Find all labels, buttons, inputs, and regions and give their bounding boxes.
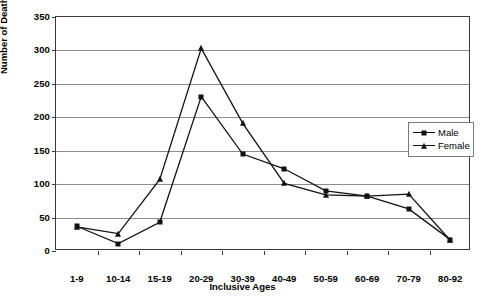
legend-key-triangle-icon: [413, 140, 435, 151]
legend-key-square-icon: [413, 127, 435, 138]
legend-label-male: Male: [438, 127, 459, 138]
data-point-female-50-59: [323, 192, 329, 198]
legend-item-male[interactable]: Male: [413, 126, 469, 139]
y-tick: [52, 251, 56, 252]
y-tick-label: 150: [10, 145, 50, 156]
data-point-female-30-39: [240, 120, 246, 126]
chart-legend[interactable]: Male Female: [408, 122, 474, 157]
data-point-female-10-14: [115, 230, 121, 236]
series-line-male: [77, 97, 451, 244]
x-tick: [264, 251, 265, 255]
data-point-male-30-39: [240, 152, 245, 157]
x-tick: [305, 251, 306, 255]
data-point-female-40-49: [281, 180, 287, 186]
y-tick-label: 350: [10, 11, 50, 22]
y-tick-label: 250: [10, 78, 50, 89]
x-tick: [347, 251, 348, 255]
data-point-female-60-69: [364, 193, 370, 199]
data-point-female-70-79: [406, 191, 412, 197]
data-point-female-15-19: [157, 176, 163, 182]
x-tick: [388, 251, 389, 255]
data-point-female-20-29: [198, 45, 204, 51]
data-point-male-70-79: [406, 206, 411, 211]
data-point-male-40-49: [282, 166, 287, 171]
data-point-female-1-9: [74, 224, 80, 230]
data-point-male-10-14: [116, 241, 121, 246]
x-tick: [430, 251, 431, 255]
y-tick-label: 200: [10, 111, 50, 122]
legend-item-female[interactable]: Female: [413, 139, 469, 152]
y-tick-label: 50: [10, 212, 50, 223]
series-line-female: [77, 48, 451, 240]
x-axis-title: Inclusive Ages: [0, 281, 485, 292]
data-point-male-15-19: [157, 220, 162, 225]
y-axis-title: Number of Deaths: [0, 0, 9, 74]
y-tick-label: 300: [10, 44, 50, 55]
y-tick-label: 0: [10, 245, 50, 256]
legend-label-female: Female: [438, 140, 470, 151]
deaths-by-age-line-chart: Number of Deaths 050100150200250300350 1…: [0, 0, 485, 305]
x-tick: [181, 251, 182, 255]
x-tick: [139, 251, 140, 255]
y-tick-label: 100: [10, 178, 50, 189]
data-point-female-80-92: [447, 237, 453, 243]
x-tick: [222, 251, 223, 255]
data-point-male-20-29: [199, 94, 204, 99]
plot-area: 050100150200250300350 1-910-1415-1920-29…: [55, 16, 470, 250]
x-tick: [98, 251, 99, 255]
